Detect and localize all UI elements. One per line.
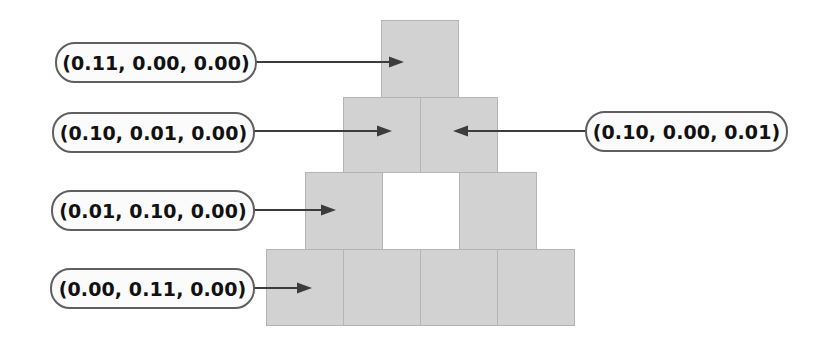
connector-callout-row4-left <box>252 278 314 298</box>
callout-row4-left[interactable]: (0.00, 0.11, 0.00) <box>50 268 255 309</box>
connector-callout-row3-left <box>254 200 338 220</box>
callout-row3-left[interactable]: (0.01, 0.10, 0.00) <box>51 190 255 231</box>
block-r4-c3 <box>420 249 498 326</box>
callout-top[interactable]: (0.11, 0.00, 0.00) <box>55 42 257 83</box>
callout-top-label: (0.11, 0.00, 0.00) <box>62 52 249 74</box>
callout-row2-left-label: (0.10, 0.01, 0.00) <box>60 122 247 144</box>
block-r4-c2 <box>343 249 421 326</box>
callout-row3-left-label: (0.01, 0.10, 0.00) <box>59 200 246 222</box>
callout-row2-left[interactable]: (0.10, 0.01, 0.00) <box>52 112 255 153</box>
block-r4-c4 <box>497 249 575 326</box>
callout-row2-right-label: (0.10, 0.00, 0.01) <box>593 121 780 143</box>
callout-row2-right[interactable]: (0.10, 0.00, 0.01) <box>585 111 788 152</box>
connector-callout-row2-right <box>453 121 588 141</box>
block-r3-c2 <box>459 172 537 250</box>
connector-callout-top <box>256 52 406 72</box>
callout-row4-left-label: (0.00, 0.11, 0.00) <box>59 278 246 300</box>
diagram-canvas: (0.11, 0.00, 0.00) (0.10, 0.01, 0.00) (0… <box>0 0 823 346</box>
connector-callout-row2-left <box>254 121 394 141</box>
